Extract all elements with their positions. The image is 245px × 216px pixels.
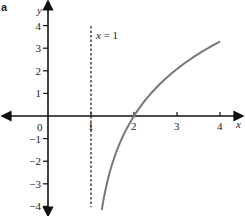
svg-text:−2: −2 <box>29 155 41 167</box>
svg-text:2: 2 <box>131 120 137 132</box>
svg-text:−4: −4 <box>29 200 41 212</box>
svg-text:−1: −1 <box>29 133 41 145</box>
origin-label: 0 <box>37 121 43 133</box>
svg-text:−3: −3 <box>29 178 41 190</box>
svg-text:4: 4 <box>217 120 223 132</box>
curve-line <box>102 42 220 211</box>
x-axis-label: x <box>235 118 241 130</box>
svg-text:1: 1 <box>36 87 42 99</box>
panel-label: a <box>1 1 8 13</box>
chart-svg: a 12344321−1−2−3−4 x y 0 x = 1 <box>0 0 245 216</box>
svg-text:2: 2 <box>36 65 42 77</box>
svg-text:3: 3 <box>174 120 180 132</box>
svg-text:3: 3 <box>36 42 42 54</box>
asymptote-label: x = 1 <box>95 29 118 41</box>
svg-text:4: 4 <box>36 20 42 32</box>
y-axis-label: y <box>36 4 42 16</box>
